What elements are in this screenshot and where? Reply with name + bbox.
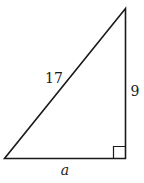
horizontal-leg-label: a (61, 162, 69, 178)
right-triangle (5, 9, 126, 159)
right-angle-marker (114, 147, 126, 159)
hypotenuse-label: 17 (45, 70, 63, 86)
vertical-leg-label: 9 (131, 83, 140, 99)
triangle-diagram: 17 9 a (0, 0, 144, 183)
